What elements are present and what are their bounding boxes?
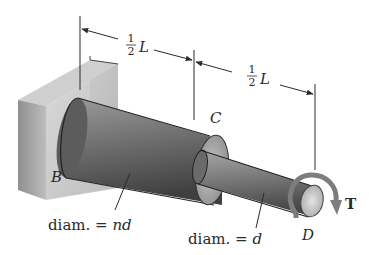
small-shaft-segment [190,149,326,219]
point-c-label: C [210,109,222,127]
stepped-shaft-diagram: 1 2 L 1 2 L B C D T diam. = nd diam. = d [0,0,369,255]
point-b-label: B [50,168,62,186]
svg-text:1: 1 [128,32,135,45]
dimension-label-left: 1 2 L [126,32,149,58]
svg-text:2: 2 [128,45,135,58]
dimension-label-right: 1 2 L [247,63,270,89]
svg-text:L: L [259,70,270,88]
svg-text:1: 1 [249,63,256,76]
large-diameter-label: diam. = nd [48,216,132,234]
point-d-label: D [301,226,314,244]
torque-label: T [345,195,357,213]
svg-text:L: L [138,38,149,56]
small-diameter-label: diam. = d [188,230,262,248]
svg-text:2: 2 [249,76,256,89]
